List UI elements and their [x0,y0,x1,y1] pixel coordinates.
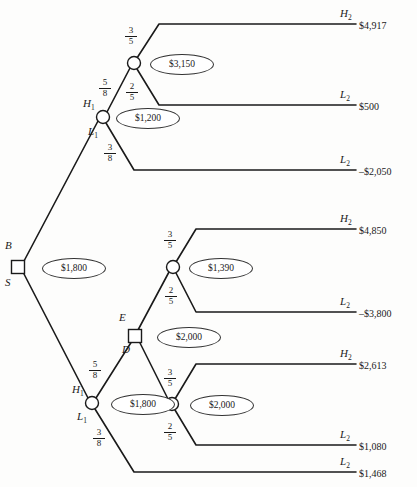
branch-label-d: D [122,344,130,355]
edge-root-to-lower-h1 [24,274,88,398]
terminal-outcome-t5: L2 [340,296,350,310]
expected-value-ev-ed: $2,000 [157,327,221,348]
branch-label-upper-h1: H1 [83,98,95,112]
terminal-value-t1: $4,917 [359,21,387,31]
edge-lower-chance-to-h2 [175,364,356,399]
terminal-value-t8: $1,468 [359,469,387,479]
branch-label-buy: B [5,240,12,251]
prob-denominator: 8 [92,439,106,448]
prob-numerator: 3 [103,143,117,152]
prob-numerator: 3 [163,368,177,377]
prob-denominator: 5 [163,433,177,442]
chance-node-mid[interactable] [167,261,180,274]
probability-p-mid-c-high: 35 [163,230,177,251]
edge-upper-chance-to-h2 [137,24,356,58]
edge-upper-chance-to-l2 [137,69,356,105]
prob-numerator: 2 [125,82,139,91]
chance-node-upper[interactable] [128,57,141,70]
prob-numerator: 5 [88,360,102,369]
expected-value-ev-root: $1,800 [42,258,106,279]
probability-p-lower-h1: 58 [88,360,102,381]
expected-value-ev-mid-c: $1,390 [189,258,253,279]
branch-label-upper-l1: L1 [88,126,98,140]
terminal-value-t7: $1,080 [359,442,387,452]
edge-lower-chance-to-l2 [175,410,356,445]
probability-p-lower-c-high: 35 [163,368,177,389]
terminal-value-t4: $4,850 [359,226,387,236]
terminal-outcome-t4: H2 [340,213,352,227]
branch-label-sell: S [5,277,11,288]
prob-numerator: 2 [163,422,177,431]
prob-denominator: 5 [124,37,138,46]
prob-denominator: 5 [125,93,139,102]
branch-label-lower-l1: L1 [77,411,87,425]
prob-numerator: 2 [164,286,178,295]
edge-mid-chance-to-h2 [176,229,356,262]
prob-denominator: 8 [88,371,102,380]
prob-denominator: 8 [98,89,112,98]
prob-denominator: 5 [164,297,178,306]
prob-denominator: 5 [163,241,177,250]
edge-mid-chance-to-l2 [176,273,356,312]
prob-denominator: 5 [163,379,177,388]
expected-value-ev-lower-h1: $1,800 [111,394,175,415]
branch-label-lower-h1: H1 [72,384,84,398]
edge-upper-h1-to-l2 [106,123,356,170]
probability-p-lower-l1: 38 [92,428,106,449]
prob-numerator: 5 [98,78,112,87]
decision-node-root[interactable] [12,261,25,274]
probability-p-lower-c-low: 25 [163,422,177,443]
terminal-value-t3: –$2,050 [359,167,392,177]
probability-p-upper-h1: 58 [98,78,112,99]
terminal-outcome-t2: L2 [340,89,350,103]
probability-p-mid-c-low: 25 [164,286,178,307]
terminal-outcome-t1: H2 [340,8,352,22]
chance-node-lower-h1[interactable] [86,397,99,410]
chance-node-upper-h1[interactable] [97,111,110,124]
edge-lower-h1-to-l2 [95,409,356,472]
terminal-value-t2: $500 [359,102,379,112]
terminal-value-t5: –$3,800 [359,309,392,319]
probability-p-upper-l1: 38 [103,143,117,164]
expected-value-ev-upper-h1: $1,200 [116,108,180,129]
probability-p-upper-c-high: 35 [124,26,138,47]
branch-label-e: E [119,312,126,323]
terminal-outcome-t3: L2 [340,154,350,168]
prob-numerator: 3 [163,230,177,239]
terminal-outcome-t6: H2 [340,348,352,362]
prob-denominator: 8 [103,154,117,163]
terminal-outcome-t7: L2 [340,429,350,443]
decision-node-ed[interactable] [129,330,142,343]
prob-numerator: 3 [124,26,138,35]
prob-numerator: 3 [92,428,106,437]
decision-tree-diagram: B S H1 L1 E D H1 L1 35582538352558353825… [0,0,417,487]
expected-value-ev-lower-c: $2,000 [190,395,254,416]
terminal-outcome-t8: L2 [340,456,350,470]
probability-p-upper-c-low: 25 [125,82,139,103]
expected-value-ev-upper-c: $3,150 [150,54,214,75]
terminal-value-t6: $2,613 [359,361,387,371]
edge-root-to-upper-h1 [24,121,98,261]
